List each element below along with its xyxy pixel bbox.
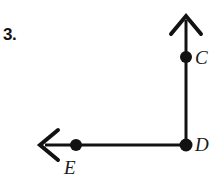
- point-label-d: D: [195, 135, 209, 154]
- point-label-e: E: [64, 158, 76, 177]
- point-d-dot: [180, 139, 193, 152]
- geometry-figure: 3. C D E: [0, 0, 223, 186]
- point-label-c: C: [195, 48, 208, 67]
- ray-diagram: [0, 0, 223, 186]
- point-c-dot: [180, 51, 192, 63]
- point-e-dot: [70, 139, 82, 151]
